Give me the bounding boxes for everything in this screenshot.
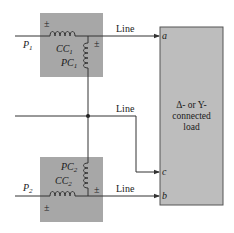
line-b-label: Line xyxy=(116,183,135,194)
polarity-mark-cc1: ± xyxy=(44,18,50,29)
polarity-mark-pc2: ± xyxy=(94,184,100,195)
polarity-mark-cc2: ± xyxy=(44,202,50,213)
load-text-line2: connected xyxy=(172,111,211,121)
load-text-line3: load xyxy=(183,122,200,132)
line-c-label: Line xyxy=(116,103,135,114)
two-wattmeter-diagram: ± ± P1 CC1 PC1 PC2 CC2 P2 ± ± Line Line … xyxy=(0,0,234,233)
terminal-b-label: b xyxy=(162,190,167,201)
terminal-a-label: a xyxy=(162,30,167,41)
terminal-c-label: c xyxy=(162,166,167,177)
power-label-p1: P1 xyxy=(22,39,33,52)
line-a-label: Line xyxy=(116,23,135,34)
polarity-mark-pc1: ± xyxy=(94,38,100,49)
power-label-p2: P2 xyxy=(22,182,33,195)
load-text-line1: Δ- or Y- xyxy=(176,100,207,110)
